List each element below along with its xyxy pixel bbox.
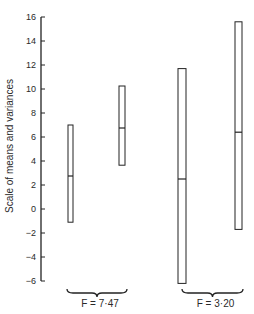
- y-tick-label: 12: [26, 60, 36, 70]
- y-tick-label: −6: [26, 276, 36, 286]
- group-f-label: F = 3·20: [197, 298, 235, 309]
- y-tick-label: −4: [26, 252, 36, 262]
- y-tick-label: 0: [31, 204, 36, 214]
- range-bar: [119, 86, 125, 165]
- range-bar: [235, 22, 242, 230]
- range-bar: [68, 125, 73, 222]
- y-tick-label: 14: [26, 36, 36, 46]
- y-tick-label: 6: [31, 132, 36, 142]
- y-tick-label: −2: [26, 228, 36, 238]
- group-braces: F = 7·47F = 3·20: [67, 289, 243, 309]
- y-tick-label: 4: [31, 156, 36, 166]
- group-brace: [182, 289, 243, 297]
- y-axis-label: Scale of means and variances: [4, 79, 15, 213]
- range-chart: 1614121086420−2−4−6 Scale of means and v…: [0, 0, 254, 314]
- y-tick-label: 2: [31, 180, 36, 190]
- y-tick-label: 10: [26, 84, 36, 94]
- y-tick-label: 8: [31, 108, 36, 118]
- group-brace: [67, 289, 127, 297]
- group-f-label: F = 7·47: [81, 298, 119, 309]
- y-axis: 1614121086420−2−4−6: [26, 12, 45, 286]
- y-tick-label: 16: [26, 12, 36, 22]
- range-bar: [178, 69, 186, 284]
- range-bars: [68, 22, 242, 284]
